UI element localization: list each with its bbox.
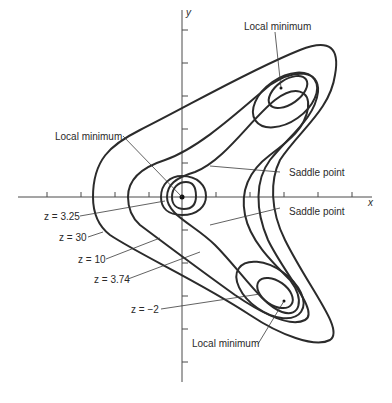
leader-z10 [106,238,160,259]
contour-z30 [93,45,336,342]
leader-z374 [128,252,200,279]
contour-diagram: x y Local minimum Local minimum Local mi… [0,0,392,403]
label-z30: z = 30 [59,232,87,243]
label-local-min-top: Local minimum [244,21,311,32]
label-z374: z = 3.74 [94,274,130,285]
contour-upper-mid [243,61,327,138]
leader-saddle-top [210,166,280,172]
y-axis-label: y [185,7,192,18]
contour-lower-mid [226,250,313,330]
label-saddle-top: Saddle point [289,167,345,178]
label-local-min-bottom: Local minimum [192,338,259,349]
leader-z30 [88,232,103,237]
label-saddle-bottom: Saddle point [289,206,345,217]
x-axis-label: x [367,197,374,208]
label-zm2: z = −2 [131,304,159,315]
label-z10: z = 10 [78,254,106,265]
contour-z10 [128,74,318,322]
label-z325: z = 3.25 [44,211,80,222]
label-local-min-center: Local minimum [55,131,122,142]
leader-local-min-center [123,136,182,197]
